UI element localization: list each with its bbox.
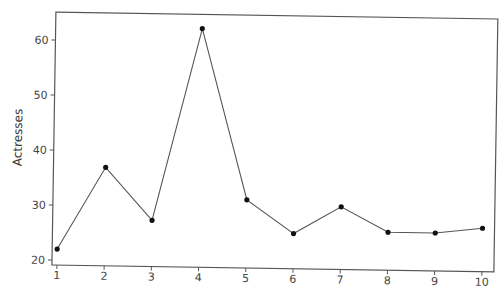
x-tick-label: 5	[242, 272, 249, 285]
y-tick-label: 50	[33, 89, 47, 102]
x-tick-label: 8	[384, 274, 391, 287]
y-tick-label: 20	[31, 254, 45, 267]
data-point	[339, 204, 344, 209]
y-tick-label: 60	[34, 34, 48, 47]
line-chart: 203040506012345678910Actresses	[0, 0, 499, 290]
x-tick-label: 7	[336, 273, 343, 286]
x-tick-label: 6	[289, 273, 296, 286]
x-tick-label: 2	[100, 270, 107, 283]
x-tick-label: 4	[195, 271, 202, 284]
data-line	[57, 26, 485, 255]
x-tick-label: 3	[148, 271, 155, 284]
data-point	[200, 26, 205, 31]
y-axis-title: Actresses	[10, 109, 25, 167]
chart-container: 203040506012345678910Actresses	[0, 0, 499, 290]
x-tick-label: 9	[431, 275, 438, 288]
data-point	[385, 230, 390, 235]
x-tick-label: 1	[53, 269, 60, 282]
x-tick-label: 10	[475, 276, 489, 289]
data-point	[55, 246, 60, 251]
data-point	[480, 226, 485, 231]
data-point	[433, 230, 438, 235]
y-tick-label: 30	[32, 199, 46, 212]
y-tick-label: 40	[33, 144, 47, 157]
